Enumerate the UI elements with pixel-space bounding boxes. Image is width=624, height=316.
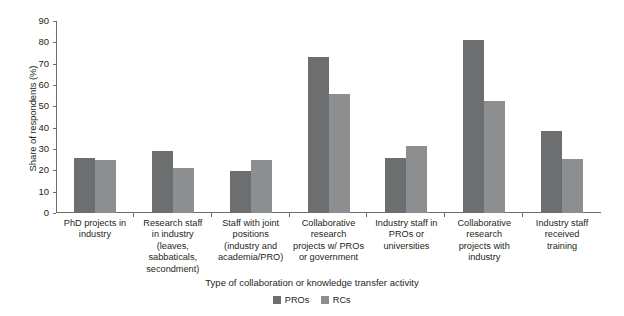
bar-pros[interactable] [74,158,95,213]
x-category-label: Industry staffreceivedtraining [523,218,601,275]
bar-chart-figure: Share of respondents (%) 010203040506070… [0,0,624,316]
bar-pair [56,21,134,213]
bar-group [56,21,134,213]
x-category-label-line: research [291,229,367,240]
bar-pair [212,21,290,213]
bar-pros[interactable] [152,151,173,213]
legend-label: PROs [285,295,310,305]
legend-label: RCs [333,295,351,305]
y-tick-label: 50 [23,101,49,111]
bar-group [367,21,445,213]
y-tick-label: 0 [23,208,49,218]
x-category-label: Industry staff inPROs oruniversities [367,218,445,275]
bar-pair [134,21,212,213]
bar-group [523,21,601,213]
bar-pair [523,21,601,213]
bar-pros[interactable] [541,131,562,213]
x-category-label-line: Staff with joint [213,218,289,229]
bar-pros[interactable] [385,158,406,213]
x-category-label: Collaborativeresearchprojects w/ PROsor … [290,218,368,275]
y-tick-label: 90 [23,16,49,26]
x-tick-mark [211,213,212,217]
y-axis-title: Share of respondents (%) [27,24,38,214]
x-category-label-line: universities [368,241,444,252]
x-category-label: Collaborativeresearchprojects withindust… [445,218,523,275]
y-tick-label: 10 [23,187,49,197]
y-tick-label: 20 [23,165,49,175]
bar-pros[interactable] [463,40,484,213]
x-category-label-line: PROs or [368,229,444,240]
legend-item[interactable]: PROs [273,295,309,305]
y-tick-label: 70 [23,59,49,69]
x-category-label-line: secondment) [135,264,211,275]
x-category-label: Research staffin industry(leaves, sabbat… [134,218,212,275]
x-axis-category-labels: PhD projects inindustryResearch staffin … [56,218,601,275]
bar-pair [445,21,523,213]
x-category-label-line: Collaborative [446,218,522,229]
x-category-label-line: projects w/ PROs [291,241,367,252]
plot-area: 0102030405060708090 [56,21,601,213]
bar-pair [367,21,445,213]
legend-swatch-icon [273,296,281,304]
y-tick-label: 30 [23,144,49,154]
x-category-label-line: Research staff [135,218,211,229]
x-category-label-line: industry [446,252,522,263]
x-category-label-line: training [524,241,600,252]
bar-pros[interactable] [230,171,251,213]
bar-pros[interactable] [308,57,329,213]
x-category-label-line: (leaves, sabbaticals, [135,241,211,264]
bar-rcs[interactable] [484,101,505,213]
bar-rcs[interactable] [95,160,116,213]
x-category-label: PhD projects inindustry [56,218,134,275]
x-category-label-line: in industry [135,229,211,240]
x-category-label-line: positions [213,229,289,240]
x-category-label-line: industry [57,229,133,240]
bar-group [290,21,368,213]
bar-rcs[interactable] [251,160,272,213]
bar-pair [290,21,368,213]
y-tick-label: 80 [23,37,49,47]
y-tick-label: 40 [23,123,49,133]
legend-item[interactable]: RCs [321,295,350,305]
x-tick-mark [522,213,523,217]
bar-rcs[interactable] [173,168,194,213]
x-category-label-line: or government [291,252,367,263]
legend-swatch-icon [321,296,329,304]
chart-legend: PROsRCs [0,295,624,305]
x-tick-mark [444,213,445,217]
bar-rcs[interactable] [406,146,427,213]
x-tick-mark [366,213,367,217]
bar-group [134,21,212,213]
x-category-label-line: received [524,229,600,240]
bar-rcs[interactable] [562,159,583,213]
bar-rcs[interactable] [329,94,350,213]
bar-groups [56,21,601,213]
x-axis-title: Type of collaboration or knowledge trans… [0,277,624,288]
y-tick-label: 60 [23,80,49,90]
bar-group [212,21,290,213]
x-category-label-line: academia/PRO) [213,252,289,263]
x-category-label-line: Collaborative [291,218,367,229]
x-category-label-line: Industry staff in [368,218,444,229]
x-category-label-line: PhD projects in [57,218,133,229]
x-tick-mark [133,213,134,217]
x-category-label: Staff with jointpositions(industry andac… [212,218,290,275]
x-category-label-line: (industry and [213,241,289,252]
x-category-label-line: Industry staff [524,218,600,229]
x-category-label-line: projects with [446,241,522,252]
x-tick-mark [289,213,290,217]
x-category-label-line: research [446,229,522,240]
y-tick-mark [53,213,56,214]
bar-group [445,21,523,213]
